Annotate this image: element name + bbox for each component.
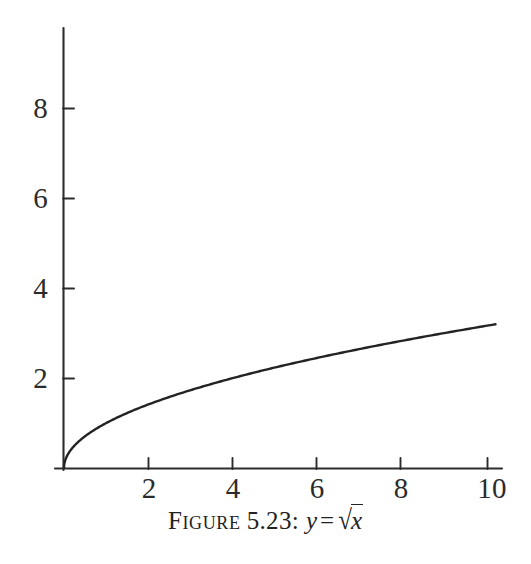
caption-number: 5.23 <box>247 507 292 534</box>
x-tick-label-10: 10 <box>477 474 506 503</box>
radical-sign-icon: √ <box>338 504 352 536</box>
equation-relation: = <box>317 507 337 534</box>
y-tick-label-4: 4 <box>18 274 48 303</box>
figure-container: 2 4 6 8 2 4 6 8 10 Figure 5.23:y=√x <box>0 0 531 564</box>
x-tick-label-8: 8 <box>394 474 409 503</box>
plot-area <box>0 0 531 510</box>
caption-equation: y=√x <box>299 507 363 534</box>
x-axis-ticks <box>149 458 488 469</box>
x-tick-label-2: 2 <box>142 474 157 503</box>
caption-separator: : <box>292 507 299 534</box>
radicand: x <box>351 504 363 535</box>
y-axis-ticks <box>63 109 74 379</box>
curve-sqrt-x <box>64 324 495 468</box>
radical-expression: √x <box>337 504 363 535</box>
y-tick-label-6: 6 <box>18 184 48 213</box>
figure-caption: Figure 5.23:y=√x <box>0 504 531 535</box>
equation-lhs: y <box>306 507 317 534</box>
y-tick-label-2: 2 <box>18 364 48 393</box>
x-tick-label-6: 6 <box>310 474 325 503</box>
caption-prefix: Figure <box>168 507 241 534</box>
y-tick-label-8: 8 <box>18 94 48 123</box>
x-tick-label-4: 4 <box>226 474 241 503</box>
